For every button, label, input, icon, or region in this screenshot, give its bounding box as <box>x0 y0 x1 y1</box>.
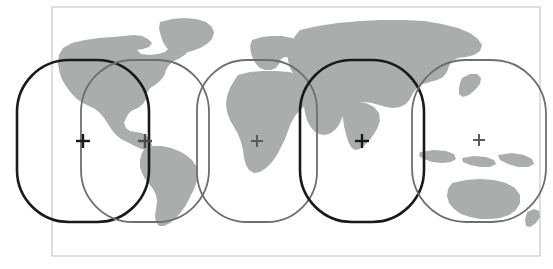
figure-container <box>0 0 553 269</box>
coverage-footprint-map <box>0 0 553 269</box>
